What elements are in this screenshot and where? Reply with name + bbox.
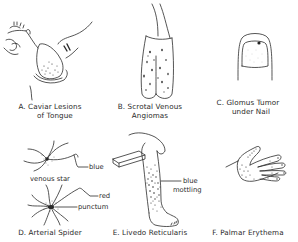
caption-c-line2: under Nail — [198, 107, 298, 116]
caption-a: A. Caviar Lesions of Tongue — [0, 102, 100, 120]
caption-c-line1: C. Glomus Tumor — [198, 98, 298, 107]
caption-e: E. Livedo Reticularis — [105, 228, 195, 237]
tongue-illustration-icon — [0, 0, 100, 100]
caption-f-line1: F. Palmar Erythema — [198, 228, 298, 237]
scrotum-illustration-icon — [100, 0, 200, 100]
hand-illustration-icon — [198, 121, 298, 221]
panel-f-palmar-erythema: F. Palmar Erythema — [198, 121, 298, 242]
caption-a-line1: A. Caviar Lesions — [0, 102, 100, 111]
leg-illustration-icon — [105, 121, 205, 231]
panel-a-caviar-lesions: A. Caviar Lesions of Tongue — [0, 0, 100, 121]
label-blue: blue — [183, 177, 198, 185]
panel-c-glomus-tumor: C. Glomus Tumor under Nail — [198, 0, 298, 121]
caption-d-line1: D. Arterial Spider — [0, 228, 100, 237]
caption-d: D. Arterial Spider — [0, 228, 100, 237]
caption-f: F. Palmar Erythema — [198, 228, 298, 237]
caption-b-line1: B. Scrotal Venous — [100, 102, 200, 111]
caption-b-line2: Angiomas — [100, 111, 200, 120]
panel-e-livedo-reticularis: blue mottling E. Livedo Reticularis — [105, 121, 205, 242]
label-blue: blue — [89, 163, 104, 171]
caption-e-line1: E. Livedo Reticularis — [105, 228, 195, 237]
caption-a-line2: of Tongue — [0, 111, 100, 120]
fingernail-illustration-icon — [198, 0, 298, 100]
label-venous-star: venous star — [30, 175, 70, 183]
panel-b-scrotal-angiomas: B. Scrotal Venous Angiomas — [100, 0, 200, 121]
panel-d-arterial-spider: blue venous star red punctum D. Arterial… — [0, 121, 110, 242]
caption-c: C. Glomus Tumor under Nail — [198, 98, 298, 116]
label-punctum: punctum — [78, 203, 108, 211]
caption-b: B. Scrotal Venous Angiomas — [100, 102, 200, 120]
